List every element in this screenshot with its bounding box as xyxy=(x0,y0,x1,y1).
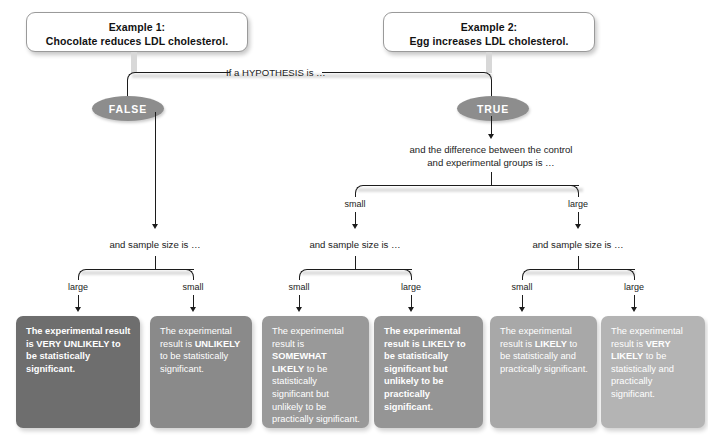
fork3-bar xyxy=(532,269,635,270)
fork1-shadow xyxy=(81,271,191,275)
example-2-line-2: Egg increases LDL cholesterol. xyxy=(384,34,594,48)
fork3-right-arrowhead xyxy=(631,307,637,312)
example-1-line-2: Chocolate reduces LDL cholesterol. xyxy=(27,34,247,48)
branch-label-difference-large: large xyxy=(558,199,598,209)
difference-small-arrowhead xyxy=(352,224,358,229)
hypothesis-line-left xyxy=(140,72,230,73)
branch-label-largediff-small: small xyxy=(502,282,542,292)
example-2-line-1: Example 2: xyxy=(384,20,594,34)
fork1-right-elbow xyxy=(183,269,194,280)
true-branch-arrow-line xyxy=(491,116,492,136)
result-box-likely-not-practical: The experimental result is LIKELY to be … xyxy=(374,316,483,428)
decision-true[interactable]: TRUE xyxy=(457,96,529,121)
difference-question: and the difference between the control a… xyxy=(381,143,601,169)
flowchart-canvas: Example 1: Chocolate reduces LDL cholest… xyxy=(0,0,708,445)
true-branch-arrowhead xyxy=(488,134,494,139)
fork1-left-arrowhead xyxy=(75,307,81,312)
difference-question-line-1: and the difference between the control xyxy=(409,144,572,155)
result-box-likely-both: The experimental result is LIKELY to be … xyxy=(490,316,597,428)
result-text-segment: LIKELY xyxy=(535,339,567,349)
decision-false-label: FALSE xyxy=(109,103,147,115)
result-box-very-unlikely: The experimental result is VERY UNLIKELY… xyxy=(16,316,140,428)
difference-fork-shadow xyxy=(358,188,583,192)
fork1-bar xyxy=(88,269,194,270)
branch-label-smalldiff-small: small xyxy=(279,282,319,292)
fork2-bar xyxy=(309,269,412,270)
sample-size-question-large-diff: and sample size is … xyxy=(518,238,638,251)
example-1-stub xyxy=(131,52,137,73)
decision-true-label: TRUE xyxy=(477,103,509,115)
fork3-stem xyxy=(578,256,579,270)
difference-fork-bar xyxy=(366,185,579,186)
sample-size-question-small-diff: and sample size is … xyxy=(295,238,415,251)
branch-label-false-small: small xyxy=(173,282,213,292)
decision-false[interactable]: FALSE xyxy=(92,96,164,121)
difference-question-line-2: and experimental groups is … xyxy=(427,157,554,168)
branch-label-false-large: large xyxy=(58,282,98,292)
branch-label-largediff-large: large xyxy=(614,282,654,292)
fork3-shadow xyxy=(525,271,635,275)
hypothesis-left-elbow xyxy=(127,72,141,86)
difference-fork-right-elbow xyxy=(567,185,579,197)
false-branch-arrow-line xyxy=(155,112,156,225)
false-branch-arrowhead xyxy=(152,224,158,229)
fork1-right-arrowhead xyxy=(190,307,196,312)
fork1-stem xyxy=(155,256,156,270)
fork2-left-elbow xyxy=(299,269,310,280)
difference-fork-stem xyxy=(491,172,492,186)
result-text-segment: to be statistically significant. xyxy=(160,351,228,374)
example-box-1: Example 1: Chocolate reduces LDL cholest… xyxy=(26,12,248,52)
fork3-left-elbow xyxy=(522,269,533,280)
fork3-left-arrowhead xyxy=(519,307,525,312)
fork2-right-arrowhead xyxy=(408,307,414,312)
result-text-segment: UNLIKELY xyxy=(195,339,241,349)
result-box-very-likely-both: The experimental result is VERY LIKELY t… xyxy=(601,316,705,428)
hypothesis-line-right xyxy=(322,72,482,73)
result-box-unlikely: The experimental result is UNLIKELY to b… xyxy=(150,316,252,428)
fork2-stem xyxy=(355,256,356,270)
result-text-segment: The experimental result is xyxy=(272,326,344,349)
root-question-label: If a HYPOTHESIS is … xyxy=(226,66,322,79)
example-2-stub xyxy=(486,52,492,73)
result-text-segment: The experimental result is LIKELY to be … xyxy=(384,326,466,412)
sample-size-question-false: and sample size is … xyxy=(95,238,215,251)
fork1-left-elbow xyxy=(78,269,89,280)
fork2-shadow xyxy=(302,271,412,275)
fork2-left-arrowhead xyxy=(296,307,302,312)
difference-fork-left-elbow xyxy=(355,185,367,197)
result-box-somewhat-likely: The experimental result is SOMEWHAT LIKE… xyxy=(262,316,369,428)
example-1-line-1: Example 1: xyxy=(27,20,247,34)
branch-label-smalldiff-large: large xyxy=(391,282,431,292)
hypothesis-right-elbow xyxy=(478,72,492,86)
branch-label-difference-small: small xyxy=(335,199,375,209)
difference-large-arrowhead xyxy=(575,224,581,229)
example-box-2: Example 2: Egg increases LDL cholesterol… xyxy=(383,12,595,52)
